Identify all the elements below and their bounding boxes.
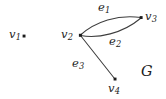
graph-name-label: G <box>141 64 153 79</box>
vertex-label-v2: v2 <box>61 29 73 41</box>
vertex-label-v1-sub: 1 <box>16 32 21 42</box>
edge-label-e2-sub: 2 <box>116 39 121 49</box>
edge-e1-curve <box>81 17 142 35</box>
vertex-label-v3-main: v <box>145 9 152 23</box>
edge-label-e1-main: e <box>98 0 105 14</box>
vertex-label-v4-main: v <box>108 81 115 95</box>
vertex-dot-v2 <box>79 34 82 37</box>
vertex-label-v3-sub: 3 <box>152 14 157 24</box>
vertex-label-v4-sub: 4 <box>115 86 120 96</box>
graph-figure: v1 v2 v3 v4 e1 e2 e3 G <box>0 0 166 99</box>
edge-label-e3-main: e <box>72 56 79 70</box>
edge-label-e1-sub: 1 <box>105 5 110 15</box>
vertex-dot-v1 <box>23 35 26 38</box>
edge-label-e3-sub: 3 <box>79 61 84 71</box>
vertex-label-v1: v1 <box>9 29 21 41</box>
edge-label-e1: e1 <box>98 2 110 14</box>
vertex-dot-v3 <box>140 16 143 19</box>
graph-canvas <box>0 0 166 99</box>
vertex-label-v1-main: v <box>9 27 16 41</box>
edge-label-e2: e2 <box>109 36 121 48</box>
edge-label-e3: e3 <box>72 58 84 70</box>
vertex-label-v3: v3 <box>145 11 157 23</box>
edge-label-e2-main: e <box>109 34 116 48</box>
vertex-label-v2-sub: 2 <box>68 32 73 42</box>
vertex-label-v4: v4 <box>108 83 120 95</box>
vertex-label-v2-main: v <box>61 27 68 41</box>
